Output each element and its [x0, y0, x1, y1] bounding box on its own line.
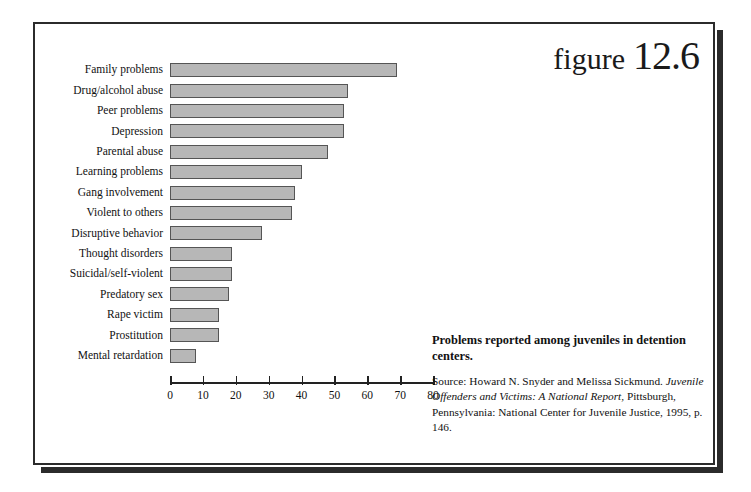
bar-track [170, 223, 717, 243]
bar-track [170, 121, 717, 141]
bar [170, 349, 196, 363]
bar [170, 308, 219, 322]
bar-track [170, 264, 717, 284]
bar [170, 165, 302, 179]
axis-tick [334, 376, 336, 385]
chart-row: Gang involvement [35, 182, 717, 202]
bar-label: Violent to others [35, 207, 170, 219]
axis-tick [302, 376, 304, 385]
axis-tick-label: 30 [263, 389, 275, 401]
bar [170, 328, 219, 342]
bar-track [170, 284, 717, 304]
bar-label: Family problems [35, 64, 170, 76]
chart-row: Family problems [35, 60, 717, 80]
axis-tick-label: 0 [167, 389, 173, 401]
bar-track [170, 305, 717, 325]
chart-row: Depression [35, 121, 717, 141]
bar-track [170, 182, 717, 202]
bar-label: Learning problems [35, 166, 170, 178]
bar [170, 287, 229, 301]
chart-row: Suicidal/self-violent [35, 264, 717, 284]
bar [170, 267, 232, 281]
bar [170, 247, 232, 261]
bar-track [170, 101, 717, 121]
axis-tick [269, 376, 271, 385]
axis-tick [170, 376, 172, 385]
bar-label: Peer problems [35, 105, 170, 117]
axis-tick-label: 50 [329, 389, 341, 401]
bar-label: Depression [35, 126, 170, 138]
caption-title: Problems reported among juveniles in det… [432, 332, 704, 365]
axis-tick-label: 40 [296, 389, 308, 401]
bar [170, 63, 397, 77]
bar [170, 84, 348, 98]
axis-tick [400, 376, 402, 385]
bar-label: Mental retardation [35, 350, 170, 362]
axis-tick [203, 376, 205, 385]
bar-label: Prostitution [35, 330, 170, 342]
caption-source: Source: Howard N. Snyder and Melissa Sic… [432, 374, 704, 436]
bar-label: Thought disorders [35, 248, 170, 260]
bar [170, 104, 344, 118]
bar-track [170, 60, 717, 80]
bar-track [170, 203, 717, 223]
bar-label: Parental abuse [35, 146, 170, 158]
chart-row: Violent to others [35, 203, 717, 223]
bar [170, 186, 295, 200]
chart-row: Peer problems [35, 101, 717, 121]
bar [170, 145, 328, 159]
chart-row: Drug/alcohol abuse [35, 80, 717, 100]
axis-tick-label: 20 [230, 389, 242, 401]
chart-rows: Family problemsDrug/alcohol abusePeer pr… [35, 60, 717, 366]
chart-row: Disruptive behavior [35, 223, 717, 243]
axis-tick-label: 70 [394, 389, 406, 401]
bar-label: Suicidal/self-violent [35, 268, 170, 280]
bar [170, 206, 292, 220]
axis-tick-label: 10 [197, 389, 209, 401]
chart-row: Rape victim [35, 305, 717, 325]
bar [170, 124, 344, 138]
bar-track [170, 162, 717, 182]
figure-shadow-bottom [41, 467, 723, 473]
axis-tick-label: 60 [362, 389, 374, 401]
bar-track [170, 244, 717, 264]
axis-tick [367, 376, 369, 385]
bar-label: Drug/alcohol abuse [35, 85, 170, 97]
chart-row: Parental abuse [35, 142, 717, 162]
axis-tick [236, 376, 238, 385]
bar-label: Predatory sex [35, 289, 170, 301]
bar-track [170, 142, 717, 162]
figure-frame: figure 12.6 Family problemsDrug/alcohol … [33, 22, 715, 465]
caption-block: Problems reported among juveniles in det… [432, 332, 704, 436]
chart-row: Learning problems [35, 162, 717, 182]
chart-row: Predatory sex [35, 284, 717, 304]
figure-shadow-right [717, 30, 723, 473]
bar-label: Disruptive behavior [35, 228, 170, 240]
bar-label: Gang involvement [35, 187, 170, 199]
bar-track [170, 80, 717, 100]
source-prefix: Source: Howard N. Snyder and Melissa Sic… [432, 375, 663, 387]
bar [170, 226, 262, 240]
chart-row: Thought disorders [35, 244, 717, 264]
bar-label: Rape victim [35, 309, 170, 321]
